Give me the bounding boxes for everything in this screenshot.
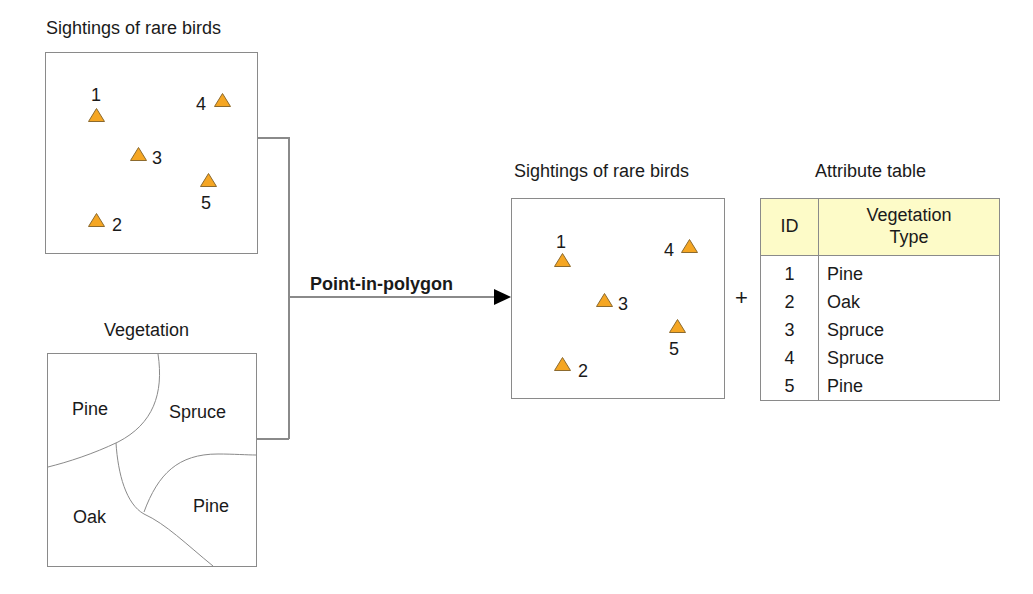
table-row: 3 Spruce [761, 316, 1000, 344]
cell-vegetation: Pine [819, 372, 1000, 401]
bird-sighting-triangle-icon [88, 108, 105, 122]
bracket-bottom-line [256, 438, 289, 440]
point-label-2: 2 [112, 216, 122, 234]
output-points-title: Sightings of rare birds [514, 161, 689, 182]
input-points-title: Sightings of rare birds [46, 18, 221, 39]
point-label-1: 1 [556, 233, 566, 251]
plus-sign: + [735, 285, 748, 311]
vegetation-boundaries [48, 354, 256, 566]
arrow-shaft [289, 296, 495, 298]
bird-sighting-triangle-icon [669, 319, 686, 333]
region-label-pine-top-left: Pine [72, 400, 108, 418]
cell-id: 1 [761, 256, 819, 289]
table-row: 4 Spruce [761, 344, 1000, 372]
operation-label: Point-in-polygon [310, 274, 453, 295]
input-vegetation-title: Vegetation [104, 320, 189, 341]
cell-id: 5 [761, 372, 819, 401]
bird-sighting-triangle-icon [214, 93, 231, 107]
column-header-id: ID [761, 199, 819, 256]
table-row: 1 Pine [761, 256, 1000, 289]
bird-sighting-triangle-icon [596, 293, 613, 307]
bird-sighting-triangle-icon [200, 173, 217, 187]
output-points-map: 1 4 3 5 2 [511, 198, 725, 399]
cell-vegetation: Oak [819, 288, 1000, 316]
point-label-4: 4 [664, 241, 674, 259]
point-label-3: 3 [152, 149, 162, 167]
cell-id: 3 [761, 316, 819, 344]
region-label-oak: Oak [73, 508, 106, 526]
bird-sighting-triangle-icon [554, 357, 571, 371]
table-row: 2 Oak [761, 288, 1000, 316]
bird-sighting-triangle-icon [130, 147, 147, 161]
point-label-2: 2 [578, 362, 588, 380]
cell-vegetation: Spruce [819, 316, 1000, 344]
column-header-vegetation-type: Vegetation Type [819, 199, 1000, 256]
region-label-spruce: Spruce [169, 403, 226, 421]
column-header-line-1: Vegetation [819, 205, 999, 227]
column-header-line-2: Type [819, 227, 999, 249]
table-row: 5 Pine [761, 372, 1000, 401]
point-label-4: 4 [196, 95, 206, 113]
bracket-vertical-line [288, 137, 290, 439]
region-label-pine-bottom-right: Pine [193, 497, 229, 515]
arrow-head-icon [494, 289, 511, 305]
attribute-table: ID Vegetation Type 1 Pine 2 Oak 3 Spruce… [760, 198, 1000, 401]
point-label-5: 5 [201, 194, 211, 212]
cell-vegetation: Spruce [819, 344, 1000, 372]
attribute-table-title: Attribute table [815, 161, 926, 182]
point-label-1: 1 [91, 86, 101, 104]
cell-vegetation: Pine [819, 256, 1000, 289]
input-vegetation-map: Pine Spruce Oak Pine [47, 353, 257, 567]
cell-id: 2 [761, 288, 819, 316]
bird-sighting-triangle-icon [681, 239, 698, 253]
point-label-3: 3 [618, 295, 628, 313]
cell-id: 4 [761, 344, 819, 372]
bracket-top-line [257, 137, 289, 139]
bird-sighting-triangle-icon [88, 213, 105, 227]
point-label-5: 5 [669, 340, 679, 358]
input-points-map: 1 4 3 5 2 [45, 52, 258, 254]
bird-sighting-triangle-icon [554, 253, 571, 267]
